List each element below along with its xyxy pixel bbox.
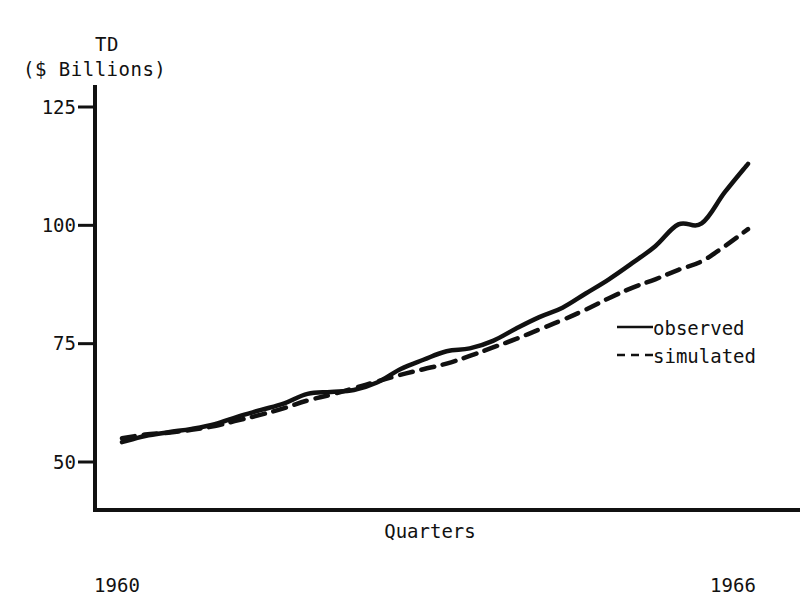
legend-label-observed: observed (653, 317, 745, 339)
y-tick-label-75: 75 (18, 332, 76, 354)
y-axis-title-line2: ($ Billions) (23, 58, 166, 80)
x-axis-start-year: 1960 (82, 572, 152, 594)
legend-label-simulated: simulated (653, 345, 756, 367)
y-tick-label-125: 125 (18, 96, 76, 118)
axes-group (78, 85, 800, 512)
legend-swatches (617, 327, 653, 355)
y-tick-label-50: 50 (18, 451, 76, 473)
x-axis-title: Quarters (340, 518, 520, 544)
y-tick-label-100: 100 (18, 214, 76, 236)
chart-plot-area (0, 0, 812, 594)
x-axis-end-year: 1966 (698, 572, 768, 594)
x-axis-end-label: 1966 IV (698, 520, 768, 594)
series-line-observed (122, 164, 748, 442)
x-axis-start-label: 1960 I (82, 520, 152, 594)
chart-figure: TD ($ Billions) 125 100 75 50 1960 I Qua… (0, 0, 812, 594)
y-axis-title-line1: TD (95, 33, 119, 55)
